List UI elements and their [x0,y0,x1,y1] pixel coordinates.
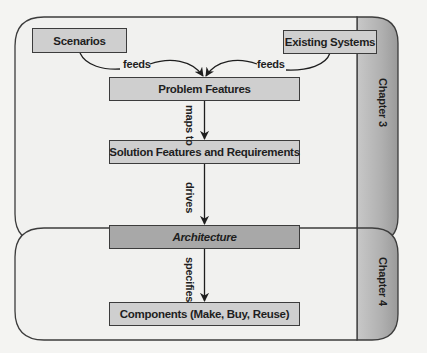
edge-label-scenarios-feeds: feeds [123,58,151,70]
node-components-label: Components (Make, Buy, Reuse) [120,308,289,320]
diagram-canvas: Scenarios Existing Systems Problem Featu… [0,0,427,353]
node-problem-features-label: Problem Features [158,83,250,95]
node-solution-features: Solution Features and Requirements [109,140,300,164]
node-solution-features-label: Solution Features and Requirements [109,146,299,158]
node-components: Components (Make, Buy, Reuse) [109,302,300,326]
edge-label-specifies: specifies [184,257,196,302]
edge-label-existing-feeds: feeds [257,58,285,70]
node-scenarios-label: Scenarios [53,35,105,47]
node-existing-systems: Existing Systems [283,30,377,54]
node-scenarios: Scenarios [32,28,127,53]
edge-label-drives: drives [184,182,196,213]
node-existing-systems-label: Existing Systems [285,36,375,48]
chapter-4-label: Chapter 4 [377,257,389,306]
edge-label-maps-to: maps to [184,105,196,146]
node-architecture: Architecture [109,225,300,249]
node-problem-features: Problem Features [109,77,300,101]
chapter-3-label: Chapter 3 [377,78,389,127]
node-architecture-label: Architecture [172,231,236,243]
